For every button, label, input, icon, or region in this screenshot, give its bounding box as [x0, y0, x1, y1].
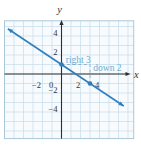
x-tick-label: 2 [76, 80, 80, 90]
coordinate-plane: xy −202442−2−4 right 3down 2 [0, 0, 141, 153]
y-axis-label: y [56, 4, 62, 15]
y-tick-label: −4 [48, 104, 58, 114]
slope-annotation: right 3 [66, 55, 91, 65]
slope-annotation: down 2 [93, 63, 121, 73]
point-marker [59, 62, 64, 67]
point-marker [88, 81, 93, 86]
graph-figure: xy −202442−2−4 right 3down 2 [0, 0, 141, 153]
y-tick-label: −2 [48, 85, 57, 95]
x-axis-label: x [133, 69, 139, 80]
y-tick-label: 2 [53, 47, 57, 57]
x-tick-label: −2 [32, 80, 41, 90]
